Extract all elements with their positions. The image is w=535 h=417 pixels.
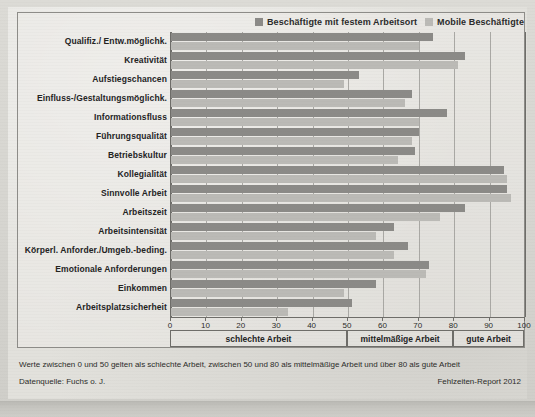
bar-group [171, 299, 525, 316]
bar-mobile [171, 42, 419, 50]
bar-group [171, 128, 525, 145]
page-bottom-edge [0, 401, 535, 417]
legend-swatch-icon [425, 18, 433, 26]
axis-tick-label-0: 0 [168, 321, 172, 330]
bar-fixed-workplace [171, 242, 408, 250]
category-label: Arbeitsplatzsicherheit [76, 302, 167, 312]
zone-box-3: gute Arbeit [453, 330, 524, 347]
category-label: Körperl. Anforder./Umgeb.-beding. [25, 245, 167, 255]
bar-mobile [171, 80, 344, 88]
category-label: Betriebskultur [108, 150, 167, 160]
category-label: Kollegialität [118, 169, 167, 179]
axis-tick-label-30: 30 [272, 321, 281, 330]
axis-tick-label-90: 90 [484, 321, 493, 330]
category-label: Führungsqualität [96, 131, 167, 141]
bar-mobile [171, 289, 344, 297]
bar-fixed-workplace [171, 147, 415, 155]
bar-fixed-workplace [171, 185, 507, 193]
bar-fixed-workplace [171, 33, 433, 41]
plot-area [170, 32, 525, 317]
bar-group [171, 71, 525, 88]
bar-fixed-workplace [171, 90, 412, 98]
bar-group [171, 280, 525, 297]
category-label: Kreativität [124, 55, 167, 65]
bar-group [171, 261, 525, 278]
footnote-source: Datenquelle: Fuchs o. J. [19, 377, 105, 386]
footnote-definition: Werte zwischen 0 und 50 gelten als schle… [19, 360, 460, 369]
axis-tick-label-60: 60 [378, 321, 387, 330]
category-label: Sinnvolle Arbeit [101, 188, 167, 198]
bar-mobile [171, 232, 376, 240]
bar-mobile [171, 118, 419, 126]
scanned-page: Beschäftigte mit festem ArbeitsortMobile… [0, 0, 535, 417]
bar-group [171, 90, 525, 107]
bar-group [171, 223, 525, 240]
category-axis-labels: Qualifiz./ Entw.möglichk.KreativitätAufs… [17, 32, 167, 317]
bar-group [171, 109, 525, 126]
chart-legend: Beschäftigte mit festem ArbeitsortMobile… [255, 15, 524, 28]
bar-mobile [171, 156, 398, 164]
zone-box-1: schlechte Arbeit [170, 330, 347, 347]
bar-group [171, 52, 525, 69]
category-label: Einfluss-/Gestaltungsmöglichk. [37, 93, 167, 103]
bar-mobile [171, 308, 288, 316]
footnote-report: Fehlzeiten-Report 2012 [437, 377, 521, 386]
bar-mobile [171, 270, 426, 278]
axis-tick-label-70: 70 [413, 321, 422, 330]
category-label: Aufstiegschancen [92, 74, 167, 84]
bar-rows [171, 32, 525, 317]
legend-label: Beschäftigte mit festem Arbeitsort [267, 17, 417, 27]
bar-mobile [171, 213, 440, 221]
bar-group [171, 166, 525, 183]
legend-swatch-icon [255, 18, 263, 26]
bar-group [171, 242, 525, 259]
bar-fixed-workplace [171, 261, 429, 269]
axis-tick-label-40: 40 [307, 321, 316, 330]
bar-fixed-workplace [171, 204, 465, 212]
legend-label: Mobile Beschäftigte [437, 17, 524, 27]
bar-fixed-workplace [171, 299, 352, 307]
axis-tick-label-100: 100 [517, 321, 530, 330]
bar-fixed-workplace [171, 71, 359, 79]
bar-fixed-workplace [171, 280, 376, 288]
bar-group [171, 33, 525, 50]
category-label: Arbeitsintensität [98, 226, 167, 236]
legend-item-1: Beschäftigte mit festem Arbeitsort [255, 17, 417, 27]
category-label: Qualifiz./ Entw.möglichk. [65, 36, 167, 46]
bar-group [171, 147, 525, 164]
bar-fixed-workplace [171, 52, 465, 60]
category-label: Informationsfluss [94, 112, 167, 122]
gridline-100 [525, 32, 526, 317]
category-label: Emotionale Anforderungen [55, 264, 167, 274]
bar-mobile [171, 251, 394, 259]
bar-mobile [171, 194, 511, 202]
bar-mobile [171, 175, 507, 183]
category-label: Arbeitszeit [122, 207, 167, 217]
bar-fixed-workplace [171, 223, 394, 231]
axis-tick-label-80: 80 [449, 321, 458, 330]
bar-fixed-workplace [171, 109, 447, 117]
bar-group [171, 204, 525, 221]
bar-mobile [171, 137, 412, 145]
bar-group [171, 185, 525, 202]
quality-zone-boxes: schlechte Arbeitmittelmäßige Arbeitgute … [170, 330, 524, 347]
category-label: Einkommen [118, 283, 167, 293]
bar-fixed-workplace [171, 166, 504, 174]
axis-tick-label-20: 20 [236, 321, 245, 330]
axis-tick-label-10: 10 [201, 321, 210, 330]
legend-item-2: Mobile Beschäftigte [425, 17, 524, 27]
value-axis: 0102030405060708090100 [170, 317, 524, 318]
zone-box-2: mittelmäßige Arbeit [347, 330, 453, 347]
bar-mobile [171, 61, 458, 69]
axis-tick-label-50: 50 [343, 321, 352, 330]
bar-mobile [171, 99, 405, 107]
bar-fixed-workplace [171, 128, 419, 136]
